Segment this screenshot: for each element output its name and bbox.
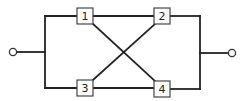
block-2: 2	[154, 8, 170, 24]
output-terminal-icon	[228, 49, 235, 56]
block-diagram: 1 2 3 4	[0, 0, 247, 101]
block-3-label: 3	[82, 82, 89, 95]
block-3: 3	[77, 80, 93, 96]
block-1-label: 1	[82, 10, 89, 23]
block-4-label: 4	[159, 83, 166, 96]
block-2-label: 2	[159, 10, 166, 23]
block-1: 1	[77, 8, 93, 24]
input-terminal-icon	[9, 48, 16, 55]
block-4: 4	[154, 81, 170, 97]
